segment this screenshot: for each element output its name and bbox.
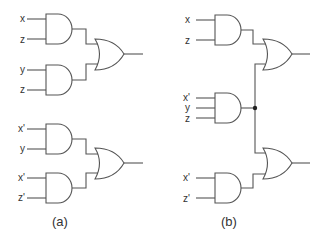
- or-gate-b2: [263, 148, 310, 179]
- and-gate-icon: [46, 124, 72, 154]
- and-gate-icon: [215, 93, 241, 123]
- or-gate-icon: [95, 39, 124, 70]
- panel-a: x z y z x' y: [18, 13, 143, 229]
- input-label: z: [185, 113, 190, 124]
- and-gate-b1: x z: [185, 14, 265, 46]
- or-gate-icon: [263, 148, 292, 179]
- and-gate-a2: y z: [20, 64, 98, 95]
- input-label: y: [185, 102, 190, 113]
- input-label: z: [20, 84, 25, 95]
- input-label: x': [18, 172, 25, 183]
- input-label: y: [20, 64, 25, 75]
- and-gate-a3: x' y: [18, 123, 98, 154]
- or-gate-a1: [95, 39, 143, 70]
- input-label: x: [185, 14, 190, 25]
- and-gate-icon: [215, 173, 241, 203]
- input-label: y: [20, 143, 25, 154]
- wire: [72, 139, 98, 154]
- input-label: z: [185, 35, 190, 46]
- input-label: z': [183, 193, 190, 204]
- or-gate-b1: [263, 39, 310, 70]
- panel-b: x z x' y z: [183, 14, 310, 229]
- wire: [72, 173, 98, 188]
- input-label: x': [183, 172, 190, 183]
- and-gate-a4: x' z': [18, 172, 98, 203]
- wire: [241, 30, 265, 44]
- input-label: x': [18, 123, 25, 134]
- junction-dot: [253, 106, 257, 110]
- and-gate-icon: [215, 15, 241, 45]
- input-label: z: [20, 34, 25, 45]
- and-gate-a1: x z: [20, 13, 98, 45]
- and-gate-icon: [46, 14, 72, 44]
- and-gate-icon: [46, 173, 72, 203]
- and-gate-b3: x' z': [183, 172, 265, 204]
- and-gate-b2: x' y z: [183, 92, 255, 124]
- or-gate-a2: [95, 148, 143, 179]
- input-label: z': [18, 192, 25, 203]
- wire: [241, 174, 265, 188]
- wire: [72, 29, 98, 44]
- or-gate-icon: [95, 148, 124, 179]
- or-gate-icon: [263, 39, 292, 70]
- and-gate-icon: [46, 65, 72, 95]
- caption-a: (a): [52, 214, 68, 229]
- logic-circuit-diagram: x z y z x' y: [0, 0, 326, 245]
- wire: [72, 64, 98, 80]
- caption-b: (b): [221, 214, 237, 229]
- input-label: x: [20, 13, 25, 24]
